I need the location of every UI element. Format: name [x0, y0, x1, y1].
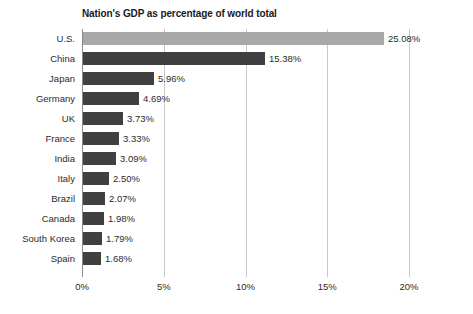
bar — [83, 152, 116, 165]
bar — [83, 252, 101, 265]
bar-row: UK3.73% — [0, 109, 473, 129]
bar-row: Italy2.50% — [0, 169, 473, 189]
bar-row: India3.09% — [0, 149, 473, 169]
category-label: China — [0, 49, 75, 69]
bar — [83, 232, 102, 245]
category-label: Italy — [0, 169, 75, 189]
bar-value-label: 15.38% — [269, 49, 301, 69]
chart-title: Nation's GDP as percentage of world tota… — [82, 8, 277, 19]
bar — [83, 212, 104, 225]
bar — [83, 52, 265, 65]
x-tick-label: 20% — [399, 281, 418, 292]
bar — [83, 72, 154, 85]
bar-row: Spain1.68% — [0, 249, 473, 269]
category-label: South Korea — [0, 229, 75, 249]
bar — [83, 32, 384, 45]
x-tick-label: 5% — [157, 281, 171, 292]
bar-row: Brazil2.07% — [0, 189, 473, 209]
category-label: Brazil — [0, 189, 75, 209]
bar-value-label: 1.68% — [105, 249, 132, 269]
bar-row: Japan5.96% — [0, 69, 473, 89]
category-label: Germany — [0, 89, 75, 109]
bar-value-label: 3.73% — [127, 109, 154, 129]
bar-value-label: 3.09% — [120, 149, 147, 169]
bar — [83, 92, 139, 105]
bar — [83, 192, 105, 205]
bar-value-label: 1.79% — [106, 229, 133, 249]
category-label: Japan — [0, 69, 75, 89]
bar-chart: Nation's GDP as percentage of world tota… — [0, 0, 473, 314]
category-label: France — [0, 129, 75, 149]
category-label: UK — [0, 109, 75, 129]
bar-row: Germany4.69% — [0, 89, 473, 109]
x-tick-label: 15% — [318, 281, 337, 292]
bar — [83, 132, 119, 145]
x-tick-label: 10% — [236, 281, 255, 292]
category-label: Canada — [0, 209, 75, 229]
bar-value-label: 2.50% — [113, 169, 140, 189]
bar-row: France3.33% — [0, 129, 473, 149]
bar-row: China15.38% — [0, 49, 473, 69]
bar — [83, 112, 123, 125]
x-axis-tick-labels: 0%5%10%15%20% — [0, 281, 473, 297]
x-tick-label: 0% — [75, 281, 89, 292]
category-label: India — [0, 149, 75, 169]
bar-row: Canada1.98% — [0, 209, 473, 229]
bar-value-label: 3.33% — [123, 129, 150, 149]
bar-value-label: 2.07% — [109, 189, 136, 209]
bar — [83, 172, 109, 185]
bar-row: South Korea1.79% — [0, 229, 473, 249]
bar-value-label: 1.98% — [108, 209, 135, 229]
bar-rows: U.S.25.08%China15.38%Japan5.96%Germany4.… — [0, 29, 473, 269]
category-label: Spain — [0, 249, 75, 269]
bar-value-label: 4.69% — [143, 89, 170, 109]
bar-value-label: 25.08% — [388, 29, 420, 49]
bar-value-label: 5.96% — [158, 69, 185, 89]
category-label: U.S. — [0, 29, 75, 49]
bar-row: U.S.25.08% — [0, 29, 473, 49]
